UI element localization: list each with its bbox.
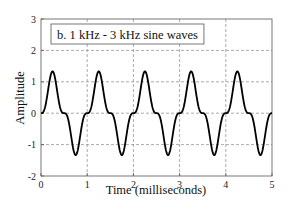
x-tick-label: 5 bbox=[270, 179, 275, 190]
y-tick-label: 2 bbox=[31, 45, 36, 56]
chart: 012345 -2-10123 b. 1 kHz - 3 kHz sine wa… bbox=[0, 0, 288, 214]
y-tick-label: -2 bbox=[28, 171, 36, 182]
x-tick-label: 1 bbox=[85, 179, 90, 190]
y-tick-label: -1 bbox=[28, 139, 36, 150]
y-axis-label: Amplitude bbox=[13, 71, 27, 125]
y-tick-label: 0 bbox=[31, 108, 36, 119]
y-tick-labels: -2-10123 bbox=[28, 14, 36, 182]
legend-label: b. 1 kHz - 3 kHz sine waves bbox=[57, 28, 198, 42]
y-tick-label: 1 bbox=[31, 76, 36, 87]
x-tick-label: 0 bbox=[39, 179, 44, 190]
legend-box: b. 1 kHz - 3 kHz sine waves bbox=[51, 24, 204, 44]
x-axis-label: Time (milliseconds) bbox=[106, 183, 207, 197]
x-tick-label: 4 bbox=[223, 179, 228, 190]
y-tick-label: 3 bbox=[31, 14, 36, 25]
